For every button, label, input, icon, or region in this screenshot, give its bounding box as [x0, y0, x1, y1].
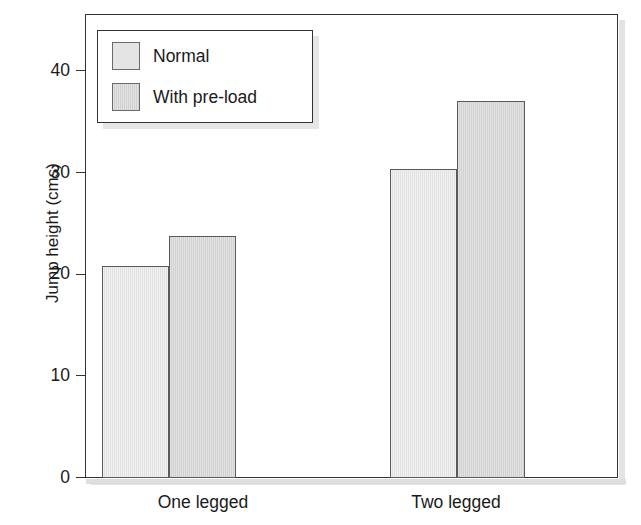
- y-axis-tick-label: 30: [24, 162, 70, 183]
- y-axis-tick-label: 0: [24, 467, 70, 488]
- y-axis-tick-label: 40: [24, 60, 70, 81]
- legend-label-normal: Normal: [153, 46, 209, 67]
- bar-two-legged-normal: [390, 169, 457, 478]
- x-axis-label-one-legged: One legged: [113, 492, 293, 513]
- legend-entry-normal: Normal: [112, 40, 209, 72]
- y-axis-tick-label: 10: [24, 365, 70, 386]
- baseline-shadow: [86, 479, 626, 484]
- y-axis-tick-mark: [76, 375, 86, 376]
- y-axis-title: Jump height (cms): [43, 83, 63, 383]
- bar-one-legged-normal: [102, 266, 169, 478]
- legend-label-with-pre-load: With pre-load: [153, 87, 257, 108]
- legend-entry-with-pre-load: With pre-load: [112, 81, 257, 113]
- chart-legend: Normal With pre-load: [97, 30, 313, 123]
- bar-two-legged-with-pre-load: [457, 101, 525, 478]
- y-axis-tick-mark: [76, 70, 86, 71]
- bar-chart-figure: Jump height (cms) 403020100 One leggedTw…: [0, 0, 641, 525]
- y-axis-tick-label: 20: [24, 263, 70, 284]
- legend-swatch-normal-icon: [112, 42, 140, 70]
- y-axis-tick-mark: [76, 477, 86, 478]
- bar-one-legged-with-pre-load: [169, 236, 236, 478]
- legend-swatch-preload-icon: [112, 83, 140, 111]
- y-axis-tick-mark: [76, 172, 86, 173]
- x-axis-label-two-legged: Two legged: [366, 492, 546, 513]
- y-axis-tick-mark: [76, 274, 86, 275]
- frame-shadow-right: [619, 20, 625, 484]
